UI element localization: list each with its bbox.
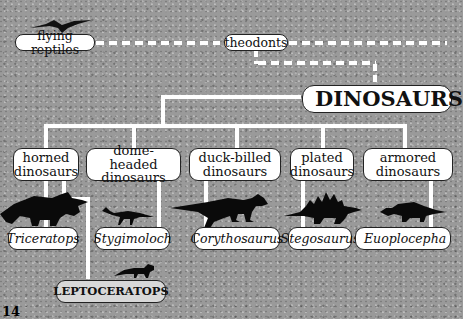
tree-line-armored [403, 124, 407, 148]
group-horned-line2: dinosaurs [14, 164, 78, 179]
tree-line-plated [321, 124, 325, 148]
group-armored: armoreddinosaurs [363, 148, 453, 181]
group-dome-text: dome-headeddinosaurs [93, 144, 174, 185]
example-leptoceratops: LEPTOCERATOPS [56, 280, 166, 303]
group-plated-text: plateddinosaurs [290, 151, 354, 178]
dinosaurs-root-label: DINOSAURS [302, 85, 452, 113]
triceratops-silhouette-icon [0, 190, 90, 230]
example-triceratops: Triceratops [8, 227, 78, 250]
group-dome-headed: dome-headeddinosaurs [86, 148, 181, 181]
example-corythosaurus-text: Corythosaurus [190, 232, 283, 245]
theodonts-label: theodonts [224, 34, 288, 51]
tree-line-horned [44, 124, 48, 148]
group-plated: plateddinosaurs [290, 148, 354, 181]
stegosaurus-silhouette-icon [284, 190, 364, 228]
group-armored-line2: dinosaurs [376, 164, 440, 179]
euoplocephalus-silhouette-icon [380, 200, 447, 226]
group-dome-line1: dome-headed [109, 143, 157, 172]
group-duck-line2: dinosaurs [203, 164, 267, 179]
group-plated-line2: dinosaurs [290, 164, 354, 179]
dinosaurs-root-text: DINOSAURS [315, 88, 463, 110]
group-duck-billed: duck-billeddinosaurs [189, 148, 281, 181]
dashed-link-horizontal [258, 61, 376, 65]
example-stegosaurus-text: Stegosaurus [281, 232, 360, 245]
tree-line-dome-down [157, 180, 161, 228]
group-armored-text: armoreddinosaurs [376, 151, 440, 178]
group-horned: horneddinosaurs [13, 148, 79, 181]
stygimoloch-silhouette-icon [100, 203, 156, 227]
tree-line-root-down [161, 95, 165, 127]
flying-reptiles-text: flying reptiles [16, 29, 94, 55]
tree-line-branch [44, 124, 407, 128]
example-leptoceratops-text: LEPTOCERATOPS [53, 285, 168, 297]
dashed-link-flying-theodonts [96, 41, 220, 45]
example-euoplocephalus-text: Euoplocepha [364, 232, 446, 245]
example-stegosaurus: Stegosaurus [288, 227, 352, 250]
leptoceratops-silhouette-icon [114, 262, 156, 280]
example-stygimoloch: Stygimoloch [95, 227, 170, 250]
example-triceratops-text: Triceratops [6, 232, 79, 245]
dashed-link-to-dinosaurs [373, 64, 377, 86]
tree-line-duck [235, 124, 239, 148]
group-duck-text: duck-billeddinosaurs [199, 151, 272, 178]
tree-line-root [161, 95, 301, 99]
example-corythosaurus: Corythosaurus [194, 227, 280, 250]
example-stygimoloch-text: Stygimoloch [93, 232, 172, 245]
flying-reptiles-label: flying reptiles [15, 34, 95, 51]
group-dome-line2: dinosaurs [101, 170, 165, 185]
page-number: 14 [2, 305, 20, 319]
dashed-link-theodonts-right [289, 41, 447, 45]
corythosaurus-silhouette-icon [168, 192, 278, 228]
example-euoplocephalus: Euoplocepha [355, 227, 451, 250]
group-horned-text: horneddinosaurs [14, 151, 78, 178]
theodonts-text: theodonts [225, 36, 288, 49]
